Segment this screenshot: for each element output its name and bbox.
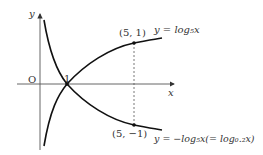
neglog5-curve-label: y = −log₅x(= log₀.₂x) <box>154 134 255 144</box>
point-label-5-neg1: (5, −1) <box>112 129 147 139</box>
point-5-1 <box>132 41 136 45</box>
point-label-5-1: (5, 1) <box>119 28 146 38</box>
y-axis-label: y <box>29 9 35 19</box>
x-axis-label: x <box>168 88 174 98</box>
log5-curve-label: y = log₅x <box>154 25 200 35</box>
origin-label: O <box>28 75 36 85</box>
intercept-label: 1 <box>64 74 70 84</box>
log-graph-diagram: y x O 1 (5, 1) (5, −1) y = log₅x y = −lo… <box>0 0 263 155</box>
point-5-neg1 <box>132 123 136 127</box>
